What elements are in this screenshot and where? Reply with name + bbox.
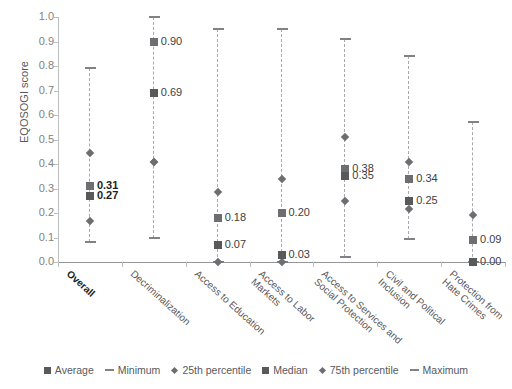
y-tick-label: 0.1 [20, 232, 54, 243]
range-line [281, 29, 282, 262]
point-value-label: 0.03 [289, 249, 310, 260]
legend-item: Maximum [410, 364, 469, 376]
point-value-label: 0.34 [416, 173, 437, 184]
legend-item: Average [44, 364, 94, 376]
legend-label: Minimum [118, 364, 161, 376]
range-line [153, 17, 154, 238]
y-tick-label: 0.0 [20, 256, 54, 267]
chart-legend: AverageMinimum25th percentileMedian75th … [0, 364, 512, 376]
x-axis-label: Overall [65, 268, 98, 299]
percentile-75-marker [86, 149, 94, 157]
y-axis-tick [54, 189, 58, 190]
point-value-label: 0.27 [97, 190, 118, 201]
minimum-cap [85, 241, 96, 243]
x-axis-tick [58, 262, 59, 267]
minimum-cap [149, 237, 160, 239]
y-tick-label: 0.9 [20, 36, 54, 47]
y-axis-tick [54, 238, 58, 239]
average-marker [405, 197, 413, 205]
y-tick-label: 1.0 [20, 11, 54, 22]
maximum-cap [277, 28, 288, 30]
y-axis-tick [54, 17, 58, 18]
x-axis-tick [186, 262, 187, 267]
legend-item: 25th percentile [171, 364, 251, 376]
y-axis-tick [54, 115, 58, 116]
y-axis-tick-labels: 0.00.10.20.30.40.50.60.70.80.91.0 [14, 0, 54, 389]
point-value-label: 0.25 [416, 195, 437, 206]
percentile-75-marker [213, 188, 221, 196]
point-value-label: 0.20 [289, 207, 310, 218]
point-value-label: 0.69 [161, 87, 182, 98]
maximum-cap [213, 28, 224, 30]
range-line [217, 29, 218, 262]
eqosogi-score-chart: EQOSOGI score 0.00.10.20.30.40.50.60.70.… [0, 0, 512, 389]
legend-label: 75th percentile [330, 364, 399, 376]
percentile-25-marker [213, 258, 221, 266]
percentile-25-marker [405, 205, 413, 213]
median-marker [469, 236, 477, 244]
legend-label: Maximum [423, 364, 469, 376]
point-value-label: 0.90 [161, 36, 182, 47]
x-axis-label: Protection fromHate Crimes [440, 268, 505, 330]
y-tick-label: 0.3 [20, 183, 54, 194]
y-axis-tick [54, 66, 58, 67]
percentile-75-marker [277, 174, 285, 182]
average-marker [341, 172, 349, 180]
point-value-label: 0.00 [480, 256, 501, 267]
y-tick-label: 0.7 [20, 85, 54, 96]
average-marker [469, 258, 477, 266]
percentile-75-marker [469, 211, 477, 219]
maximum-cap [404, 55, 415, 57]
legend-label: 25th percentile [182, 364, 251, 376]
median-marker [150, 38, 158, 46]
percentile-75-marker [150, 157, 158, 165]
x-axis-tick [377, 262, 378, 267]
point-value-label: 0.35 [352, 170, 373, 181]
average-marker [150, 89, 158, 97]
y-axis-line [58, 17, 59, 262]
y-axis-tick [54, 140, 58, 141]
legend-item: 75th percentile [319, 364, 399, 376]
square-icon [262, 367, 269, 374]
minimum-cap [404, 238, 415, 240]
percentile-25-marker [341, 197, 349, 205]
average-marker [278, 251, 286, 259]
x-axis-tick [505, 262, 506, 267]
median-marker [278, 209, 286, 217]
x-axis-tick [250, 262, 251, 267]
legend-item: Median [262, 364, 307, 376]
percentile-25-marker [86, 217, 94, 225]
y-tick-label: 0.6 [20, 109, 54, 120]
legend-item: Minimum [105, 364, 161, 376]
y-tick-label: 0.2 [20, 207, 54, 218]
point-value-label: 0.07 [225, 239, 246, 250]
diamond-icon [171, 366, 178, 373]
percentile-75-marker [405, 157, 413, 165]
average-marker [86, 192, 94, 200]
dash-icon [105, 369, 114, 371]
square-icon [44, 367, 51, 374]
percentile-75-marker [341, 133, 349, 141]
legend-label: Median [273, 364, 307, 376]
y-axis-tick [54, 91, 58, 92]
x-axis-tick [441, 262, 442, 267]
maximum-cap [468, 121, 479, 123]
x-axis-tick [313, 262, 314, 267]
y-axis-tick [54, 213, 58, 214]
y-tick-label: 0.5 [20, 134, 54, 145]
x-axis-tick [122, 262, 123, 267]
point-value-label: 0.09 [480, 234, 501, 245]
y-axis-tick [54, 164, 58, 165]
point-value-label: 0.18 [225, 212, 246, 223]
y-tick-label: 0.8 [20, 60, 54, 71]
median-marker [405, 175, 413, 183]
median-marker [214, 214, 222, 222]
minimum-cap [340, 256, 351, 258]
diamond-icon [319, 366, 326, 373]
median-marker [86, 182, 94, 190]
dash-icon [410, 369, 419, 371]
percentile-25-marker [277, 258, 285, 266]
legend-label: Average [55, 364, 94, 376]
x-axis-label: Decriminalization [128, 268, 192, 327]
y-axis-tick [54, 42, 58, 43]
